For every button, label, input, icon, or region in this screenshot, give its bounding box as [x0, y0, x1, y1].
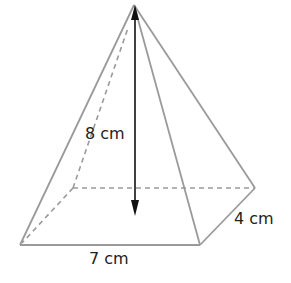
- arrow-down-icon: [131, 200, 139, 216]
- pyramid-diagram: [0, 0, 291, 283]
- left-base-edge: [22, 188, 73, 243]
- front-right-lateral-edge: [134, 5, 200, 245]
- width-label: 4 cm: [234, 209, 274, 228]
- back-right-lateral-edge: [134, 5, 255, 188]
- visible-edges: [20, 5, 255, 245]
- height-label: 8 cm: [85, 124, 125, 143]
- length-label: 7 cm: [89, 249, 129, 268]
- back-left-lateral-edge: [73, 28, 128, 188]
- height-arrow: [131, 5, 139, 216]
